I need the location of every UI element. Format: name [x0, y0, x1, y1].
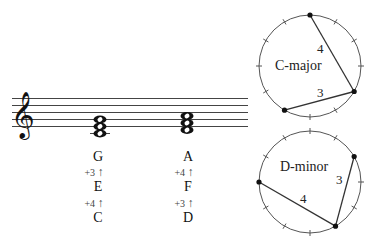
interval-value: +3 — [174, 198, 185, 209]
interval-value: +4 — [174, 167, 185, 178]
whole-note-g — [94, 116, 107, 124]
note-label-e: E — [78, 180, 118, 194]
up-arrow-icon: ↑ — [188, 196, 194, 210]
interval-label-plus4: +4 ↑ — [74, 197, 114, 210]
pitch-dot — [282, 108, 287, 113]
edge-label-c-e: 4 — [317, 41, 324, 56]
tick-mark — [283, 19, 286, 24]
tick-mark — [283, 224, 286, 229]
interval-edge — [336, 157, 355, 227]
up-arrow-icon: ↑ — [98, 196, 104, 210]
note-label-c: C — [78, 211, 118, 225]
tick-mark — [263, 206, 268, 209]
edge-label-e-g: 3 — [317, 85, 324, 100]
svg-text:𝄞: 𝄞 — [11, 91, 35, 140]
tick-mark — [334, 135, 337, 140]
note-label-a: A — [168, 150, 208, 164]
whole-note-c — [94, 130, 107, 138]
interval-value: +3 — [84, 167, 95, 178]
edge-label-d-f: 3 — [336, 172, 343, 187]
tick-mark — [352, 39, 357, 42]
interval-label-plus3: +3 ↑ — [164, 197, 204, 210]
tick-mark — [263, 39, 268, 42]
pitch-dot — [352, 154, 357, 159]
note-label-d: D — [168, 211, 208, 225]
interval-label-plus4: +4 ↑ — [164, 166, 204, 179]
pitch-dot — [333, 224, 338, 229]
pitch-dot — [307, 12, 312, 17]
music-staff — [12, 99, 248, 127]
interval-value: +4 — [84, 198, 95, 209]
pitch-circle — [259, 131, 361, 233]
tick-mark — [334, 19, 337, 24]
tick-mark — [283, 135, 286, 140]
whole-note-e — [94, 123, 107, 131]
whole-note-d — [181, 126, 194, 134]
up-arrow-icon: ↑ — [98, 165, 104, 179]
tick-mark — [263, 90, 268, 93]
circle-title-c-major: C-major — [275, 58, 322, 73]
edge-label-f-a: 4 — [300, 191, 307, 206]
pitch-dot — [256, 179, 261, 184]
note-label-g: G — [78, 150, 118, 164]
interval-label-plus3: +3 ↑ — [74, 166, 114, 179]
treble-clef-icon: 𝄞 — [11, 91, 35, 140]
whole-note-f — [181, 119, 194, 127]
up-arrow-icon: ↑ — [188, 165, 194, 179]
chord-diagram: 𝄞 C-major 4 3 D-minor 3 4 G +3 ↑ E +4 ↑ … — [0, 0, 374, 245]
tick-mark — [352, 206, 357, 209]
whole-note-a — [181, 112, 194, 120]
staff-chords — [90, 112, 194, 137]
note-label-f: F — [168, 180, 208, 194]
tick-mark — [334, 108, 337, 113]
circle-title-d-minor: D-minor — [280, 159, 329, 174]
pitch-dot — [352, 89, 357, 94]
interval-edge — [259, 182, 336, 226]
tick-mark — [263, 155, 268, 158]
pitch-circle-d-minor — [256, 128, 364, 236]
